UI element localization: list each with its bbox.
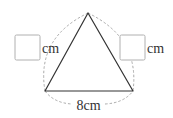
left-answer-box[interactable] xyxy=(15,35,40,60)
bottom-side-arc-right xyxy=(105,91,133,104)
triangle-diagram: cm cm 8cm xyxy=(0,0,173,118)
left-unit-label: cm xyxy=(42,41,59,56)
right-answer-box[interactable] xyxy=(120,35,145,60)
bottom-side-length-label: 8cm xyxy=(76,98,100,113)
right-unit-label: cm xyxy=(147,41,164,56)
bottom-side-arc-left xyxy=(45,91,72,104)
